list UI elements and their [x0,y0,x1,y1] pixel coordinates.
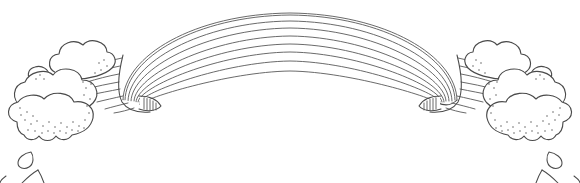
raindrop-right-1 [547,152,562,168]
rainbow-stripe-line-8 [140,61,440,102]
rainbow-stripe-line-7 [138,52,442,102]
rainbow-band-fill [123,13,457,103]
raindrop-right-3 [536,170,542,183]
right-band-strand-6 [457,96,483,102]
left-band-strand-6 [97,96,123,102]
raindrop-left-4 [0,176,6,183]
raindrop-left-3 [38,170,44,183]
raindrop-right-4 [574,176,580,183]
rainbow-arc [87,13,493,113]
raindrop-left-2 [22,170,38,183]
right-raindrops [536,152,580,183]
rainbow-left-fold [139,96,161,111]
illustration-canvas [0,0,580,183]
rainbow-right-fold [419,96,441,111]
left-raindrops [0,152,44,183]
right-cloud-bank [465,41,572,141]
raindrop-left-1 [18,152,33,168]
left-cloud-bank [8,41,115,141]
raindrop-right-2 [542,170,558,183]
right-band-strand-7 [452,103,475,109]
rainbow-coloring-illustration: Rainbow Arc With Clouds Coloring Page [0,0,580,183]
rainbow-stripe-line-6 [136,44,444,102]
right-band-strand-8 [446,108,466,113]
rainbow-stripe-line-9 [142,71,438,103]
